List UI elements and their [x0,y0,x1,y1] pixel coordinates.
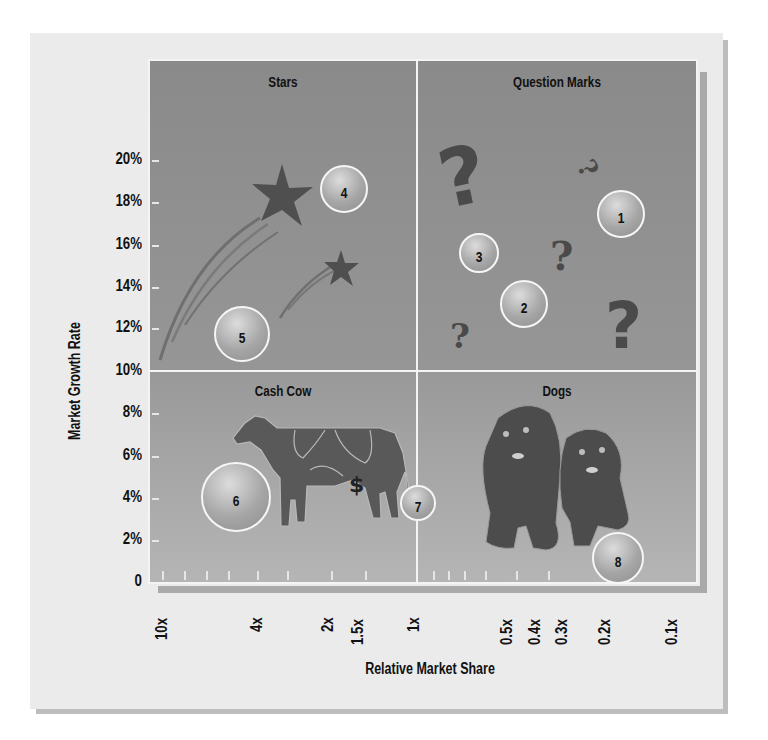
x-tick-mark [448,571,450,580]
y-axis-title: Market Growth Rate [66,322,84,440]
y-tick-label: 14% [109,276,142,296]
bubble-4: 4 [320,165,368,213]
x-tick-label: 0.3x [552,619,572,645]
y-tick-label: 16% [109,234,142,254]
plot-shadow [158,586,707,593]
y-tick-label: 2% [109,529,142,549]
x-tick-label: 0.2x [595,619,615,645]
y-tick-label: 6% [109,445,142,465]
y-tick-label: 18% [109,191,142,211]
x-tick-label: 1x [404,617,424,632]
x-tick-mark [331,571,333,580]
x-axis-title: Relative Market Share [329,660,532,678]
x-tick-mark [485,571,487,580]
bubble-1: 1 [597,190,645,238]
y-tick-label: 8% [109,402,142,422]
svg-text:$: $ [349,472,364,497]
y-tick-label: 12% [109,317,142,337]
card-shadow [36,709,728,714]
y-tick-mark [152,498,159,500]
svg-text:?: ? [571,154,605,182]
x-tick-label: 2x [318,617,338,632]
y-tick-mark [152,413,159,415]
y-tick-mark [152,456,159,458]
bubble-6: 6 [201,462,271,532]
bubble-8: 8 [592,532,644,584]
x-tick-label: 0.1x [662,619,682,645]
plot-shadow [700,72,707,592]
y-tick-label: 4% [109,487,142,507]
x-tick-mark [433,571,435,580]
y-tick-mark [152,540,159,542]
question-mark-icons: ? ? ? ? ? [420,120,670,360]
x-tick-mark [464,571,466,580]
svg-text:?: ? [550,232,573,279]
svg-text:?: ? [450,316,470,356]
bubble-2: 2 [500,280,548,328]
x-tick-mark [184,571,186,580]
y-tick-label: 20% [109,149,142,169]
quadrant-title-question-marks: Question Marks [449,73,666,90]
y-tick-label: 0 [109,571,142,591]
quadrant-title-dogs: Dogs [449,382,666,399]
y-tick-label: 10% [109,360,142,380]
x-tick-mark [548,571,550,580]
quadrant-title-stars: Stars [179,73,386,90]
bubble-7: 7 [400,485,436,521]
x-tick-mark [257,571,259,580]
x-tick-mark [287,571,289,580]
x-tick-mark [365,571,367,580]
svg-text:?: ? [430,127,495,228]
bubble-5: 5 [214,306,270,362]
x-tick-label: 0.4x [525,619,545,645]
svg-text:?: ? [605,289,642,360]
x-tick-label: 10x [152,618,172,640]
x-tick-label: 4x [247,617,267,632]
x-tick-mark [162,571,164,580]
x-tick-mark [228,571,230,580]
x-tick-label: 1.5x [348,619,368,645]
x-tick-mark [206,571,208,580]
bubble-3: 3 [459,233,499,273]
card-shadow [723,40,728,714]
x-tick-mark [516,571,518,580]
x-tick-label: 0.5x [497,619,517,645]
